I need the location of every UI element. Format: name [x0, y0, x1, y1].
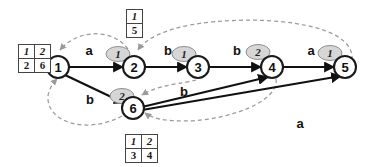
table-node-1-value-cell-0: 2 — [19, 59, 35, 73]
table-node-1-value-cell-1: 6 — [35, 59, 51, 73]
table-node-1-header-cell-1: 2 — [35, 45, 51, 59]
node-4-label: 4 — [268, 60, 276, 75]
badge-node-5-label: 1 — [327, 47, 333, 59]
edge-label-6-5: a — [296, 116, 304, 131]
table-node-6-value-row: 3 4 — [126, 149, 158, 163]
node-5-label: 5 — [341, 60, 348, 75]
table-node-6-header-row: 1 2 — [126, 135, 158, 149]
table-node-6-header-cell-0: 1 — [126, 135, 142, 149]
table-node-6-value-cell-1: 4 — [142, 149, 158, 163]
dashed-4-to-6 — [145, 79, 276, 121]
edge-label-4-5: a — [307, 43, 315, 58]
table-node-1-value-row: 2 6 — [19, 59, 51, 73]
node-6-label: 6 — [129, 101, 136, 116]
table-node-2-value-cell-0: 5 — [127, 24, 143, 38]
edge-label-3-4: b — [233, 43, 241, 58]
edge-label-1-6: b — [86, 92, 94, 107]
table-node-2-header-row: 1 — [127, 10, 143, 24]
badge-node-2-label: 1 — [115, 48, 121, 60]
node-1-label: 1 — [54, 60, 61, 75]
table-node-6: 1 2 3 4 — [125, 134, 158, 163]
table-node-1-header-row: 1 2 — [19, 45, 51, 59]
table-node-1-header-cell-0: 1 — [19, 45, 35, 59]
badge-node-4-label: 2 — [254, 46, 261, 58]
node-2-label: 2 — [130, 60, 137, 75]
table-node-2: 1 5 — [126, 9, 143, 38]
graph-canvas: a b b a b b a 1 1 2 1 2 1 2 — [0, 0, 369, 167]
edge-6-5 — [142, 76, 341, 110]
graph-diagram: a b b a b b a 1 1 2 1 2 1 2 — [0, 0, 369, 167]
node-3-label: 3 — [194, 60, 201, 75]
dashed-6-to-1 — [48, 79, 122, 125]
table-node-6-value-cell-0: 3 — [126, 149, 142, 163]
table-node-2-header-cell-0: 1 — [127, 10, 143, 24]
edge-label-1-2: a — [85, 43, 93, 58]
table-node-6-header-cell-1: 2 — [142, 135, 158, 149]
edge-label-2-3: b — [164, 43, 172, 58]
table-node-1: 1 2 2 6 — [18, 44, 51, 73]
badge-node-3-label: 1 — [181, 48, 187, 60]
edge-label-6-4: b — [180, 84, 188, 99]
table-node-2-value-row: 5 — [127, 24, 143, 38]
